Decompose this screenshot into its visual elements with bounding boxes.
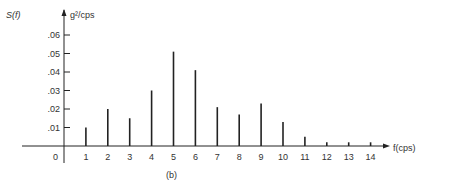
x-tick-label: 8 xyxy=(237,152,242,162)
y-tick-label: .03 xyxy=(47,86,60,96)
y-tick-label: .06 xyxy=(47,30,60,40)
y-tick-label: .01 xyxy=(47,123,60,133)
y-tick-label: .02 xyxy=(47,104,60,114)
x-tick-label: 11 xyxy=(300,152,309,162)
x-tick-label: 6 xyxy=(193,152,198,162)
figure-caption: (b) xyxy=(166,170,177,180)
x-tick-label: 12 xyxy=(322,152,332,162)
y-tick-label: .05 xyxy=(47,49,60,59)
spectral-density-chart: .01.02.03.04.05.061234567891011121314 S(… xyxy=(0,0,461,186)
y-axis-arrow-icon xyxy=(62,9,67,16)
x-tick-label: 5 xyxy=(171,152,176,162)
x-tick-label: 13 xyxy=(344,152,354,162)
x-tick-label: 14 xyxy=(366,152,376,162)
axes: .01.02.03.04.05.061234567891011121314 xyxy=(22,9,390,163)
y-tick-label: .04 xyxy=(47,67,60,77)
x-tick-label: 9 xyxy=(259,152,264,162)
x-tick-label: 7 xyxy=(215,152,220,162)
y-axis-label: S(f) xyxy=(6,10,21,20)
x-tick-label: 3 xyxy=(127,152,132,162)
x-axis-arrow-icon xyxy=(383,144,390,149)
x-tick-label: 10 xyxy=(278,152,288,162)
x-tick-label: 2 xyxy=(105,152,110,162)
y-axis-units: g²/cps xyxy=(70,10,95,20)
x-axis-label: f(cps) xyxy=(393,143,416,153)
spectral-lines xyxy=(86,52,371,146)
x-tick-label: 4 xyxy=(149,152,154,162)
x-origin-label: 0 xyxy=(53,152,58,162)
x-tick-label: 1 xyxy=(83,152,88,162)
